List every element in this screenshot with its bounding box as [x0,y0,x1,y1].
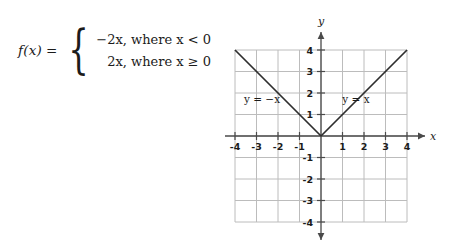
x-tick-label: 2 [361,141,368,152]
left-brace: { [69,31,90,68]
x-tick-label: -2 [273,141,284,152]
piecewise-function-definition: f(x) = { −2x, where x < 0 2x, where x ≥ … [18,20,223,80]
cases-list: −2x, where x < 0 2x, where x ≥ 0 [96,32,211,69]
y-axis-arrow-up [318,32,325,39]
x-axis-arrow [418,133,425,140]
y-axis-label: y [317,15,325,28]
x-axis-label: x [430,130,437,143]
case-row: 2x, where x ≥ 0 [107,54,211,69]
x-tick-label: -4 [230,141,241,152]
y-tick-label: 1 [306,109,313,120]
curve-label-left: y = −x [243,93,280,105]
x-tick-labels: -4 -3 -2 -1 1 2 3 4 [230,141,411,152]
equals-sign: = [46,42,57,58]
y-tick-label: -3 [302,195,313,206]
y-tick-label: -2 [302,174,313,185]
y-tick-label: -4 [302,217,313,228]
y-tick-label: -1 [302,152,313,163]
coordinate-graph: -4 -3 -2 -1 1 2 3 4 4 3 2 1 -1 -2 -3 -4 … [225,10,457,249]
case-row: −2x, where x < 0 [96,32,211,47]
y-axis-arrow-down [318,233,325,240]
curve-label-right: y = x [341,93,369,105]
y-tick-label: 3 [306,66,313,77]
y-tick-label: 2 [306,88,313,99]
y-tick-label: 4 [306,45,313,56]
x-tick-label: -1 [294,141,305,152]
function-name: f(x) [18,42,42,58]
x-tick-label: 1 [339,141,346,152]
x-tick-label: 4 [404,141,411,152]
graph-svg: -4 -3 -2 -1 1 2 3 4 4 3 2 1 -1 -2 -3 -4 … [225,10,457,249]
x-tick-label: 3 [382,141,389,152]
x-tick-label: -3 [251,141,262,152]
